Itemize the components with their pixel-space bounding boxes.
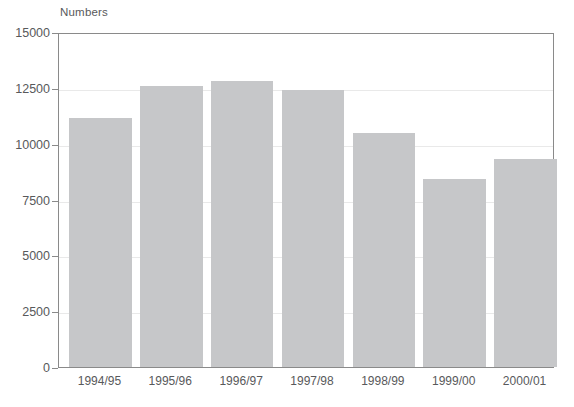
bar-chart: Numbers 0250050007500100001250015000 199…: [0, 0, 574, 407]
x-axis-tick-label: 1996/97: [219, 374, 262, 388]
x-axis-tick-label: 1994/95: [78, 374, 121, 388]
x-axis-tick-label: 1997/98: [290, 374, 333, 388]
x-axis-tick-label: 1998/99: [361, 374, 404, 388]
bar: [282, 90, 345, 367]
bar: [69, 118, 132, 367]
y-axis-unit-label: Numbers: [60, 6, 108, 18]
y-axis-tick-label: 7500: [4, 194, 50, 208]
bar: [140, 86, 203, 367]
y-axis-tick-label: 15000: [4, 26, 50, 40]
y-axis-tick-label: 2500: [4, 305, 50, 319]
bar: [494, 159, 557, 367]
y-axis-tick-label: 12500: [4, 82, 50, 96]
bar: [353, 133, 416, 368]
x-axis-tick-label: 1995/96: [149, 374, 192, 388]
plot-area: [58, 33, 554, 368]
bar: [423, 179, 486, 367]
x-axis-tick-label: 1999/00: [432, 374, 475, 388]
y-axis-tick-label: 5000: [4, 249, 50, 263]
x-axis-tick-label: 2000/01: [503, 374, 546, 388]
bar: [211, 81, 274, 367]
y-axis-tick-label: 10000: [4, 138, 50, 152]
y-axis-tick-label: 0: [4, 361, 50, 375]
y-axis-tick-mark: [52, 368, 58, 369]
